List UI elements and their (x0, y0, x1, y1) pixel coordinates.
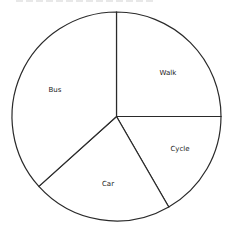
pie-chart: Walk Cycle Car Bus (0, 0, 233, 235)
label-car: Car (102, 180, 114, 188)
label-cycle: Cycle (170, 145, 189, 153)
slice-walk (117, 12, 222, 117)
label-walk: Walk (160, 69, 178, 77)
label-bus: Bus (49, 86, 62, 94)
